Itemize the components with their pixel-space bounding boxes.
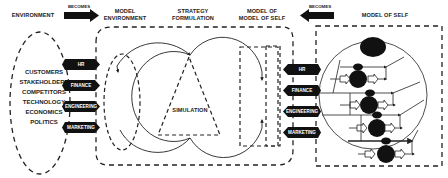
strategy-loop-right — [190, 37, 262, 72]
model-environment-line2: ENVIRONMENT — [100, 15, 150, 22]
model-of-model-of-self-header: MODEL OF MODEL OF SELF — [232, 8, 292, 22]
tag-label: MARKETING — [283, 127, 321, 138]
model-environment-line1: MODEL — [100, 8, 150, 15]
tag-label: HR — [283, 64, 321, 75]
left-tag-hr: HR — [62, 59, 100, 70]
becomes-label-right: BECOMES — [305, 4, 335, 9]
becomes-arrow-left-icon — [300, 9, 334, 22]
becomes-arrow-right-icon — [64, 9, 99, 22]
left-tag-engineering: ENGINEERING — [62, 101, 100, 112]
left-tag-marketing: MARKETING — [62, 122, 100, 133]
strategy-formulation-header: STRATEGY FORMULATION — [163, 8, 223, 22]
right-tag-engineering: ENGINEERING — [283, 106, 321, 117]
model-of-model-line1: MODEL OF — [232, 8, 292, 15]
becomes-label-left: BECOMES — [64, 4, 94, 9]
model-environment-ellipse — [104, 54, 140, 150]
environment-header: ENVIRONMENT — [6, 12, 60, 19]
right-tag-hr: HR — [283, 64, 321, 75]
strategy-line1: STRATEGY — [163, 8, 223, 15]
right-tag-marketing: MARKETING — [283, 127, 321, 138]
strategy-line2: FORMULATION — [163, 15, 223, 22]
right-tag-finance: FINANCE — [283, 85, 321, 96]
tag-label: HR — [62, 59, 100, 70]
simulation-triangle — [158, 57, 220, 135]
strategy-loop-left — [132, 52, 190, 142]
tag-label: ENGINEERING — [62, 101, 100, 112]
model-of-self-header: MODEL OF SELF — [350, 12, 420, 19]
tag-label: FINANCE — [62, 80, 100, 91]
tag-label: MARKETING — [62, 122, 100, 133]
self-organization-network — [319, 37, 427, 163]
model-of-model-line2: MODEL OF SELF — [232, 15, 292, 22]
tag-label: ENGINEERING — [283, 106, 321, 117]
simulation-label: SIMULATION — [160, 107, 220, 114]
left-tag-finance: FINANCE — [62, 80, 100, 91]
model-environment-header: MODEL ENVIRONMENT — [100, 8, 150, 22]
tag-label: FINANCE — [283, 85, 321, 96]
